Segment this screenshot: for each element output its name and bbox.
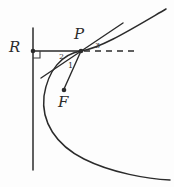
point-dot-r [31,49,36,54]
figure-canvas [0,0,174,187]
geometry-figure: R P F 1 2 3 [0,0,174,187]
angle-label-1: 1 [68,62,73,70]
label-p: P [74,27,84,42]
label-r: R [9,40,20,55]
angle-label-2: 2 [59,53,64,61]
point-dot-p [79,49,84,54]
label-f: F [58,95,68,110]
angle-label-3: 3 [95,42,100,50]
point-dot-f [62,88,67,93]
